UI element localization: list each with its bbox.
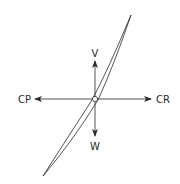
center-point — [92, 96, 97, 101]
inclined-body — [43, 15, 131, 176]
inclined-line-outer — [43, 15, 131, 176]
label-w: W — [90, 141, 100, 152]
inclined-line-inner — [43, 15, 131, 176]
label-cr: CR — [156, 94, 170, 105]
label-v: V — [92, 48, 99, 59]
label-cp: CP — [18, 94, 31, 105]
force-diagram: V W CP CR — [0, 0, 180, 184]
